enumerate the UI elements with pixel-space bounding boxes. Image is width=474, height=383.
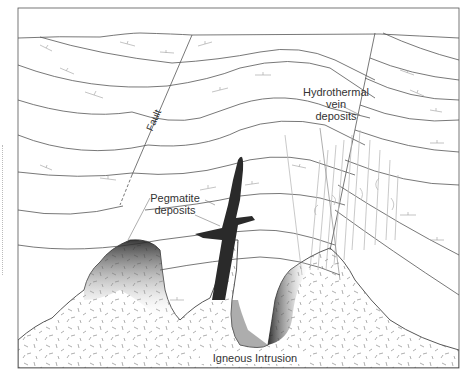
hydrothermal-label-line2: vein [286,98,386,110]
hydrothermal-label: Hydrothermal vein deposits [286,86,386,122]
fault-line-east [330,33,375,250]
hydrothermal-label-line3: deposits [286,110,386,122]
hydrothermal-veins [285,130,398,275]
fault-line [132,35,192,175]
cross-section-diagram [0,0,474,383]
hydrothermal-label-line1: Hydrothermal [286,86,386,98]
pegmatite-dike [195,157,255,300]
fault-line-dashed [120,175,132,205]
strata-right [335,33,459,295]
pegmatite-label: Pegmatite deposits [140,192,210,216]
pegmatite-label-line2: deposits [140,204,210,216]
pegmatite-label-line1: Pegmatite [140,192,210,204]
igneous-intrusion-label: Igneous Intrusion [200,352,310,364]
